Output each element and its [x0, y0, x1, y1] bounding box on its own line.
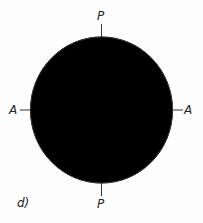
interference-figure: P P A A d) [0, 0, 203, 223]
label-p-bottom: P [97, 198, 104, 210]
label-a-right: A [184, 104, 192, 116]
conoscopic-diagram [0, 0, 203, 223]
panel-label: d) [17, 197, 29, 209]
label-a-left: A [9, 104, 17, 116]
label-p-top: P [97, 10, 104, 22]
